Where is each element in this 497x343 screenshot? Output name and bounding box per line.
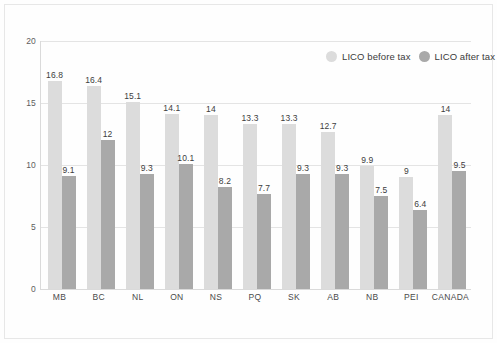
bar-group: 148.2 — [204, 41, 232, 289]
bar-value-label: 13.3 — [281, 113, 298, 123]
x-tick-label-mb: MB — [53, 292, 66, 302]
bar-value-label: 9.1 — [62, 165, 74, 175]
bar-group: 13.37.7 — [243, 41, 271, 289]
x-tick-label-nl: NL — [132, 292, 143, 302]
bar-before-tax[interactable]: 9 — [399, 177, 413, 289]
bar-before-tax[interactable]: 15.1 — [126, 102, 140, 289]
y-tick-label: 5 — [12, 222, 36, 232]
x-tick-label-on: ON — [170, 292, 183, 302]
bar-after-tax[interactable]: 7.7 — [257, 194, 271, 289]
bar-after-tax[interactable]: 8.2 — [218, 187, 232, 289]
bar-after-tax[interactable]: 9.1 — [62, 176, 76, 289]
bar-before-tax[interactable]: 16.8 — [48, 81, 62, 289]
bar-value-label: 9 — [404, 166, 409, 176]
bar-group: 16.89.1 — [48, 41, 76, 289]
bar-before-tax[interactable]: 13.3 — [282, 124, 296, 289]
bar-before-tax[interactable]: 12.7 — [321, 132, 335, 289]
bar-group: 13.39.3 — [282, 41, 310, 289]
bar-value-label: 10.1 — [177, 153, 194, 163]
x-tick-label-ab: AB — [327, 292, 339, 302]
bar-after-tax[interactable]: 9.5 — [452, 171, 466, 289]
bar-group: 149.5 — [438, 41, 466, 289]
bar-after-tax[interactable]: 9.3 — [296, 174, 310, 289]
y-tick-label: 15 — [12, 98, 36, 108]
x-axis: MBBCNLONNSPQSKABNBPEICANADA — [40, 292, 470, 310]
bar-value-label: 15.1 — [124, 91, 141, 101]
bar-group: 12.79.3 — [321, 41, 349, 289]
bar-value-label: 14 — [441, 104, 451, 114]
bar-after-tax[interactable]: 9.3 — [335, 174, 349, 289]
bar-before-tax[interactable]: 16.4 — [87, 86, 101, 289]
bar-after-tax[interactable]: 10.1 — [179, 164, 193, 289]
bar-after-tax[interactable]: 7.5 — [374, 196, 388, 289]
bar-before-tax[interactable]: 14 — [438, 115, 452, 289]
bar-before-tax[interactable]: 13.3 — [243, 124, 257, 289]
bar-group: 9.97.5 — [360, 41, 388, 289]
bar-after-tax[interactable]: 6.4 — [413, 210, 427, 289]
bar-value-label: 12 — [103, 129, 113, 139]
bars-layer: 16.89.116.41215.19.314.110.1148.213.37.7… — [42, 41, 471, 289]
bar-group: 15.19.3 — [126, 41, 154, 289]
bar-after-tax[interactable]: 9.3 — [140, 174, 154, 289]
bar-value-label: 7.7 — [258, 183, 270, 193]
x-tick-label-bc: BC — [92, 292, 104, 302]
x-tick-label-pei: PEI — [404, 292, 419, 302]
bar-value-label: 14 — [206, 104, 216, 114]
bar-value-label: 14.1 — [163, 103, 180, 113]
x-tick-label-nb: NB — [366, 292, 378, 302]
x-tick-label-pq: PQ — [249, 292, 262, 302]
bar-value-label: 9.3 — [141, 163, 153, 173]
bar-value-label: 9.9 — [361, 155, 373, 165]
bar-group: 96.4 — [399, 41, 427, 289]
y-tick-label: 20 — [12, 36, 36, 46]
bar-value-label: 9.3 — [336, 163, 348, 173]
page-background: 05101520 LICO before tax LICO after tax … — [0, 0, 497, 343]
bar-value-label: 9.3 — [297, 163, 309, 173]
bar-group: 14.110.1 — [165, 41, 193, 289]
bar-before-tax[interactable]: 14 — [204, 115, 218, 289]
bar-after-tax[interactable]: 12 — [101, 140, 115, 289]
bar-value-label: 6.4 — [414, 199, 426, 209]
plot-area: LICO before tax LICO after tax 16.89.116… — [40, 41, 471, 290]
x-tick-label-sk: SK — [288, 292, 300, 302]
bar-group: 16.412 — [87, 41, 115, 289]
y-tick-label: 0 — [12, 284, 36, 294]
bar-value-label: 16.8 — [46, 70, 63, 80]
bar-value-label: 16.4 — [85, 75, 102, 85]
bar-value-label: 8.2 — [219, 176, 231, 186]
x-tick-label-canada: CANADA — [432, 292, 469, 302]
x-tick-label-ns: NS — [210, 292, 222, 302]
bar-chart-figure: 05101520 LICO before tax LICO after tax … — [0, 0, 497, 343]
bar-value-label: 13.3 — [242, 113, 259, 123]
bar-before-tax[interactable]: 9.9 — [360, 166, 374, 289]
bar-before-tax[interactable]: 14.1 — [165, 114, 179, 289]
bar-value-label: 12.7 — [320, 121, 337, 131]
y-axis: 05101520 — [8, 41, 36, 289]
bar-value-label: 9.5 — [453, 160, 465, 170]
y-tick-label: 10 — [12, 160, 36, 170]
bar-value-label: 7.5 — [375, 185, 387, 195]
